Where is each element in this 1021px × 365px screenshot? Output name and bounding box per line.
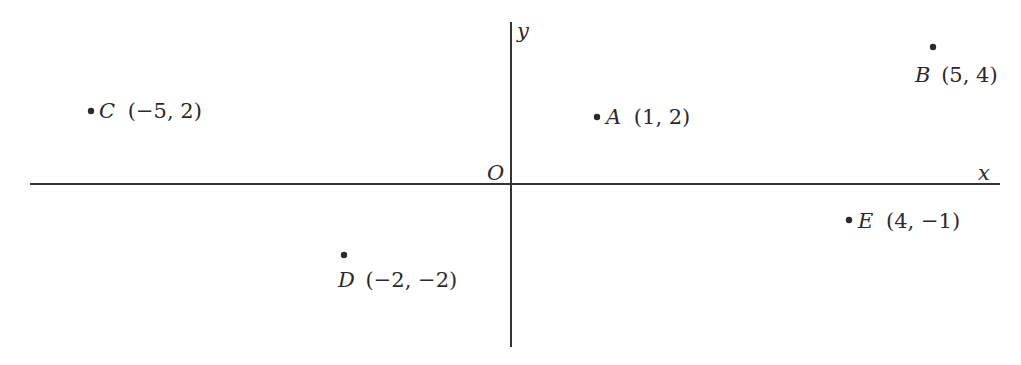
point-a: A (1, 2) [594, 105, 691, 129]
origin-label: O [487, 161, 504, 185]
point-d-coords: (−2, −2) [366, 268, 458, 292]
point-c-marker [88, 108, 94, 114]
svg-text:D (−2, −2): D (−2, −2) [337, 268, 457, 292]
x-axis-label: x [978, 161, 990, 185]
point-a-marker [594, 114, 600, 120]
point-c: C (−5, 2) [88, 99, 202, 123]
point-b-coords: (5, 4) [941, 63, 997, 87]
point-c-name: C [99, 99, 115, 123]
point-e-coords: (4, −1) [886, 209, 960, 233]
point-b: B (5, 4) [914, 44, 998, 87]
point-c-coords: (−5, 2) [128, 99, 202, 123]
point-d-marker [341, 252, 347, 258]
point-e-name: E [857, 209, 873, 233]
y-axis-label: y [516, 19, 530, 43]
point-b-name: B [914, 63, 930, 87]
coordinate-plane: x y O A (1, 2) B (5, 4) C (−5, 2) D (−2,… [0, 0, 1021, 365]
point-a-name: A [604, 105, 621, 129]
point-a-coords: (1, 2) [634, 105, 690, 129]
svg-text:E (4, −1): E (4, −1) [857, 209, 960, 233]
svg-text:B (5, 4): B (5, 4) [914, 63, 998, 87]
point-b-marker [930, 44, 936, 50]
point-d-name: D [337, 268, 355, 292]
point-d: D (−2, −2) [337, 252, 457, 292]
point-e-marker [846, 217, 852, 223]
point-e: E (4, −1) [846, 209, 960, 233]
svg-text:C (−5, 2): C (−5, 2) [99, 99, 202, 123]
svg-text:A (1, 2): A (1, 2) [604, 105, 690, 129]
